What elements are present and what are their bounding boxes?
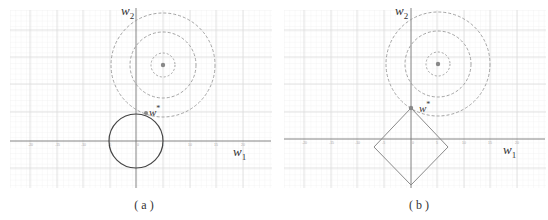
svg-text:-15: -15 [55, 143, 60, 147]
svg-text:0: 0 [412, 141, 414, 145]
y-axis-label: w2 [395, 3, 408, 21]
svg-text:-5: -5 [382, 141, 385, 145]
svg-text:-10: -10 [81, 143, 86, 147]
grid [284, 10, 546, 188]
loss-minimum-point [161, 63, 165, 67]
panel-b: -20-15-10 -505 101520 w2 w1 w* ( b ) [274, 0, 548, 220]
plot-a: -20-15-10 -505 101520 [0, 0, 274, 220]
svg-text:-15: -15 [329, 141, 334, 145]
svg-text:10: 10 [188, 143, 192, 147]
svg-text:0: 0 [137, 143, 139, 147]
optimum-label: w* [419, 100, 430, 114]
caption-a: ( a ) [114, 198, 174, 213]
panel-a: -20-15-10 -505 101520 w2 w1 w* ( a ) [0, 0, 274, 220]
optimum-label: w* [149, 104, 160, 118]
svg-text:-10: -10 [355, 141, 360, 145]
svg-text:10: 10 [462, 141, 466, 145]
svg-text:15: 15 [488, 141, 492, 145]
svg-text:-20: -20 [302, 141, 307, 145]
y-axis-label: w2 [121, 3, 134, 21]
plot-b: -20-15-10 -505 101520 [274, 0, 548, 220]
optimum-point [144, 111, 148, 115]
loss-minimum-point [436, 62, 440, 66]
svg-text:15: 15 [214, 143, 218, 147]
optimum-point [409, 106, 413, 110]
x-axis-label: w1 [503, 142, 516, 160]
caption-b: ( b ) [389, 198, 449, 213]
svg-text:5: 5 [436, 141, 438, 145]
x-axis-label: w1 [233, 144, 246, 162]
svg-text:-20: -20 [28, 143, 33, 147]
